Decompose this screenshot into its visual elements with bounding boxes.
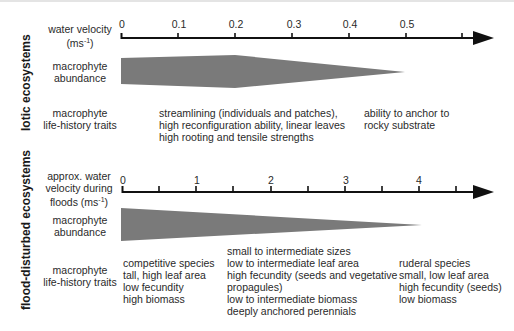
flood-velocity-axis (122, 185, 494, 199)
flood-abundance-label: macrophyte abundance (40, 214, 120, 238)
axis-label-unit: (ms (66, 37, 84, 49)
flood-tick-1: 1 (194, 174, 200, 186)
trait-line: high fecundity (seeds and vegetative (227, 269, 397, 281)
flood-traits-group-1: competitive species tall, high leaf area… (123, 257, 215, 305)
lotic-tick-0.3: 0.3 (287, 18, 302, 30)
lotic-abundance-wedge (121, 55, 405, 88)
trait-line: competitive species (123, 257, 215, 269)
flood-abundance-wedge (121, 208, 422, 241)
axis-label-line: water velocity (40, 23, 120, 35)
lotic-axis-label: water velocity (ms-1) (40, 23, 120, 49)
trait-line: propagules) (227, 281, 397, 293)
flood-tick-0: 0 (120, 174, 126, 186)
lotic-traits-label: macrophyte life-history traits (32, 107, 128, 131)
flood-traits-group-3: ruderal species small, low leaf area hig… (399, 257, 502, 305)
lotic-traits-group-2: ability to anchor to rocky substrate (364, 107, 449, 131)
flood-traits-label: macrophyte life-history traits (32, 264, 128, 288)
trait-line: tall, high leaf area (123, 269, 215, 281)
flood-tick-2: 2 (268, 174, 274, 186)
trait-line: low to intermediate biomass (227, 293, 397, 305)
trait-line: low to intermediate leaf area (227, 257, 397, 269)
arrow-head-icon (473, 31, 494, 45)
trait-line: rocky substrate (364, 119, 449, 131)
lotic-tick-0.4: 0.4 (343, 18, 358, 30)
label-line: macrophyte (32, 264, 128, 276)
label-line: abundance (40, 72, 120, 84)
lotic-tick-0.2: 0.2 (229, 18, 244, 30)
lotic-velocity-axis (121, 31, 494, 45)
axis-label-line: velocity during (38, 182, 120, 194)
flood-tick-3: 3 (343, 174, 349, 186)
trait-line: small to intermediate sizes (227, 245, 397, 257)
lotic-abundance-label: macrophyte abundance (40, 60, 120, 84)
trait-line: high reconfiguration ability, linear lea… (159, 119, 345, 131)
lotic-tick-0.5: 0.5 (400, 18, 415, 30)
axis-label-line: approx. water (38, 170, 120, 182)
lotic-section-title: lotic ecosystems (19, 34, 33, 131)
lotic-tick-0: 0 (119, 18, 125, 30)
flood-section-title: flood-disturbed ecosystems (19, 150, 33, 310)
flood-axis-label: approx. water velocity during floods (ms… (38, 170, 120, 208)
trait-line: small, low leaf area (399, 269, 502, 281)
lotic-traits-group-1: streamlining (individuals and patches), … (159, 107, 345, 143)
label-line: macrophyte (40, 214, 120, 226)
label-line: macrophyte (40, 60, 120, 72)
lotic-tick-0.1: 0.1 (172, 18, 187, 30)
label-line: life-history traits (32, 276, 128, 288)
trait-line: ability to anchor to (364, 107, 449, 119)
axis-label-close: ) (90, 37, 94, 49)
trait-line: high fecundity (seeds) (399, 281, 502, 293)
trait-line: streamlining (individuals and patches), (159, 107, 345, 119)
trait-line: ruderal species (399, 257, 502, 269)
trait-line: deeply anchored perennials (227, 305, 397, 317)
flood-tick-4: 4 (416, 174, 422, 186)
trait-line: low biomass (399, 293, 502, 305)
label-line: macrophyte (32, 107, 128, 119)
trait-line: high biomass (123, 293, 215, 305)
label-line: life-history traits (32, 119, 128, 131)
arrow-head-icon (473, 185, 494, 199)
axis-label-close: ) (105, 196, 109, 208)
trait-line: high rooting and tensile strengths (159, 131, 345, 143)
label-line: abundance (40, 226, 120, 238)
trait-line: low fecundity (123, 281, 215, 293)
axis-label-unit: floods (ms (50, 196, 98, 208)
flood-traits-group-2: small to intermediate sizes low to inter… (227, 245, 397, 317)
